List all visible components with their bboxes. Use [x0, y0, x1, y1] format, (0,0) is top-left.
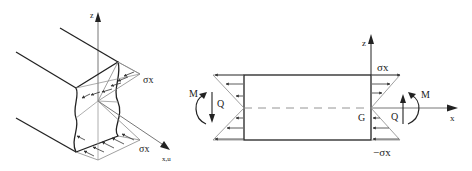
sigma-top-label-left: σx	[143, 74, 153, 85]
beam-edge-bottom-front	[16, 118, 76, 152]
z-arrow-icon	[368, 34, 374, 44]
shear-up-arrow-icon	[400, 94, 406, 103]
z-label-right: z	[362, 38, 366, 48]
sigma-bottom-label-left: σx	[139, 143, 149, 154]
beam-edge-top-front	[16, 52, 76, 88]
sigma-bottom-label-right: −σx	[373, 146, 391, 158]
z-label-left: z	[90, 11, 94, 20]
moment-arc-right	[408, 95, 419, 124]
x-label-left: x,u	[162, 155, 171, 163]
left-beam-figure: z x,u σx	[16, 11, 171, 163]
moment-label-left: M	[189, 88, 198, 99]
x-arrow-icon	[447, 105, 458, 112]
beam-edge-top-back	[60, 28, 118, 62]
centroid-label: G	[358, 112, 365, 123]
shear-label-right: Q	[391, 111, 399, 122]
sigma-top-label-right: σx	[377, 61, 389, 73]
moment-label-right: M	[421, 89, 430, 100]
right-beam-figure: z x σx −σx G Q M	[189, 34, 458, 158]
moment-arc-left	[196, 95, 206, 124]
z-arrow-icon	[95, 12, 101, 22]
shear-down-arrow-icon	[209, 114, 215, 123]
x-arrow-icon	[160, 141, 170, 150]
x-label-right: x	[450, 113, 455, 123]
stress-arrows-right	[371, 75, 400, 139]
shear-label-left: Q	[217, 98, 225, 109]
beam-element	[244, 75, 371, 140]
diagram-canvas: z x,u σx	[0, 0, 472, 171]
